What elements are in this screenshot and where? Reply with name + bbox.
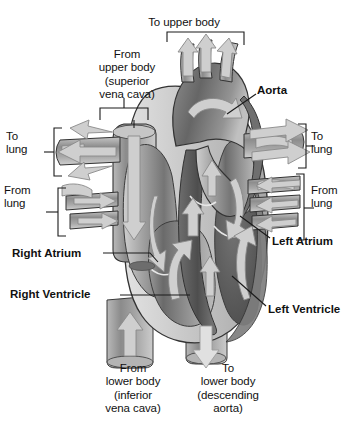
label-right-atrium: Right Atrium (12, 247, 102, 260)
label-to-lower-body: To lower body (descending aorta) (180, 362, 276, 416)
label-from-lung-right: From lung (311, 184, 359, 211)
heart-anatomy-figure: To upper body From upper body (superior … (0, 0, 360, 442)
label-right-ventricle: Right Ventricle (10, 288, 120, 301)
label-aorta: Aorta (257, 84, 327, 97)
label-from-lung-left: From lung (4, 184, 56, 211)
label-to-lung-right: To lung (311, 130, 357, 157)
label-left-ventricle: Left Ventricle (268, 303, 360, 316)
label-from-upper-body: From upper body (superior vena cava) (78, 48, 176, 102)
arrow-to-lung-left-1 (70, 120, 112, 139)
label-to-lung-left: To lung (6, 130, 54, 157)
label-from-lower-body: From lower body (inferior vena cava) (88, 362, 178, 416)
right-atrium-marker (129, 262, 155, 271)
label-to-upper-body: To upper body (128, 16, 240, 29)
label-left-atrium: Left Atrium (272, 235, 358, 248)
